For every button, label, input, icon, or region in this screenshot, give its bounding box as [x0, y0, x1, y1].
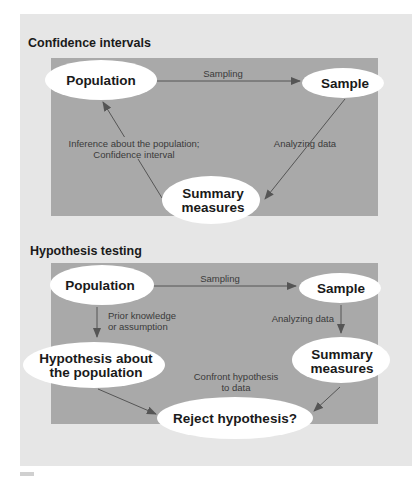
- ht-node-label-summary-line2: measures: [310, 361, 373, 376]
- ht-edge-label-prior-line1: Prior knowledge: [108, 310, 176, 321]
- ht-edge-label-sampling: Sampling: [200, 273, 240, 284]
- ht-edge-label-confront-line2: to data: [221, 382, 251, 393]
- ht-node-label-population: Population: [65, 278, 135, 293]
- arrow-down-left-icon: [265, 99, 345, 199]
- ht-node-sample: Sample: [299, 273, 381, 303]
- ci-edge-label-inference-line2: Confidence interval: [93, 149, 174, 160]
- ht-node-reject-hypothesis: Reject hypothesis?: [157, 397, 313, 439]
- ht-edge-confront: Confront hypothesis to data: [194, 371, 279, 393]
- ht-edge-label-confront-line1: Confront hypothesis: [194, 371, 279, 382]
- ht-edge-hypothesis-to-reject: [98, 389, 156, 414]
- arrow-down-left-icon: [314, 387, 340, 411]
- ht-node-label-hypothesis-line1: Hypothesis about: [39, 351, 153, 366]
- ci-node-label-summary-line2: measures: [181, 200, 244, 215]
- ht-node-label-summary-line1: Summary: [311, 347, 373, 362]
- ht-node-population: Population: [50, 265, 154, 305]
- ht-node-label-reject: Reject hypothesis?: [173, 411, 297, 426]
- ci-node-label-population: Population: [66, 73, 136, 88]
- ht-edge-prior: Prior knowledge or assumption: [97, 307, 176, 337]
- ci-node-label-summary-line1: Summary: [182, 186, 244, 201]
- ci-edge-label-sampling: Sampling: [203, 68, 243, 79]
- ht-edge-summary-to-reject: [314, 387, 340, 411]
- ht-edge-sampling: Sampling: [153, 273, 296, 286]
- ht-node-label-hypothesis-line2: the population: [50, 365, 143, 380]
- ci-node-sample: Sample: [302, 68, 384, 98]
- ci-edge-label-inference-line1: Inference about the population;: [69, 138, 200, 149]
- ht-node-label-sample: Sample: [317, 281, 366, 296]
- ci-node-summary-measures: Summary measures: [162, 176, 260, 224]
- ci-edge-sampling: Sampling: [157, 68, 300, 81]
- ht-edge-analyzing: Analyzing data: [272, 305, 341, 333]
- ci-edge-analyzing: Analyzing data: [265, 99, 345, 199]
- ht-edge-label-analyzing: Analyzing data: [272, 313, 335, 324]
- ht-node-hypothesis: Hypothesis about the population: [23, 342, 165, 388]
- cropped-caption-fragment: [20, 472, 34, 476]
- ci-node-label-sample: Sample: [321, 76, 370, 91]
- ht-node-summary-measures: Summary measures: [292, 337, 390, 383]
- ci-edge-label-analyzing: Analyzing data: [274, 138, 337, 149]
- arrow-down-right-icon: [98, 389, 156, 414]
- ht-edge-label-prior-line2: or assumption: [108, 321, 168, 332]
- ci-node-population: Population: [45, 60, 157, 100]
- flow-diagram: Sampling Analyzing data Inference about …: [0, 0, 417, 479]
